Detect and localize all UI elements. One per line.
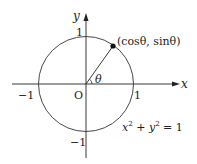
angle-arc (90, 79, 93, 84)
tick-label-x-neg: −1 (18, 89, 34, 102)
tick-label-x-pos: 1 (134, 89, 141, 102)
tick-label-y-pos: 1 (76, 26, 83, 39)
tick-label-y-neg: −1 (70, 136, 86, 149)
point-marker (110, 43, 115, 48)
x-axis-label: x (181, 77, 188, 91)
angle-label: θ (95, 73, 102, 86)
y-axis-arrow-icon (84, 13, 89, 21)
unit-circle-diagram: y x O 1 −1 1 −1 θ (cosθ, sinθ) x2 + y2 =… (0, 0, 197, 164)
equation-label: x2 + y2 = 1 (122, 120, 183, 134)
point-label: (cosθ, sinθ) (117, 35, 181, 48)
y-axis-label: y (72, 9, 80, 23)
origin-label: O (74, 89, 83, 102)
x-axis-arrow-icon (172, 82, 180, 87)
